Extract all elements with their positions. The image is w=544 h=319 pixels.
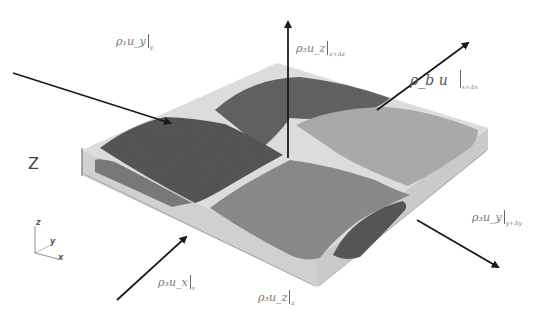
inflow-y-arrow [13, 73, 170, 123]
outflow-y-arrow [417, 220, 498, 267]
slab-diagram [0, 0, 544, 319]
label-inflow-x: ρ₃u_xx [158, 271, 195, 291]
label-outflow-x: ρ_b ux+Δx [410, 70, 478, 90]
triad-x-label: x [58, 253, 63, 262]
label-inflow-y: ρ₁u_yy [116, 30, 153, 50]
z-axis-label: Z [28, 154, 39, 173]
triad-z-label: z [36, 218, 41, 227]
label-outflow-z: ρ₃u_zz+Δz [296, 37, 345, 57]
phase-regions [95, 77, 478, 259]
label-inflow-z: ρ₃u_zz [258, 286, 294, 306]
label-outflow-y: ρ₃u_yy+Δy [472, 206, 522, 226]
triad-y-label: y [50, 237, 55, 246]
figure-canvas: Z z y x ρ₁u_yy ρ₃u_zz+Δz ρ_b ux+Δx ρ₃u_y… [0, 0, 544, 319]
